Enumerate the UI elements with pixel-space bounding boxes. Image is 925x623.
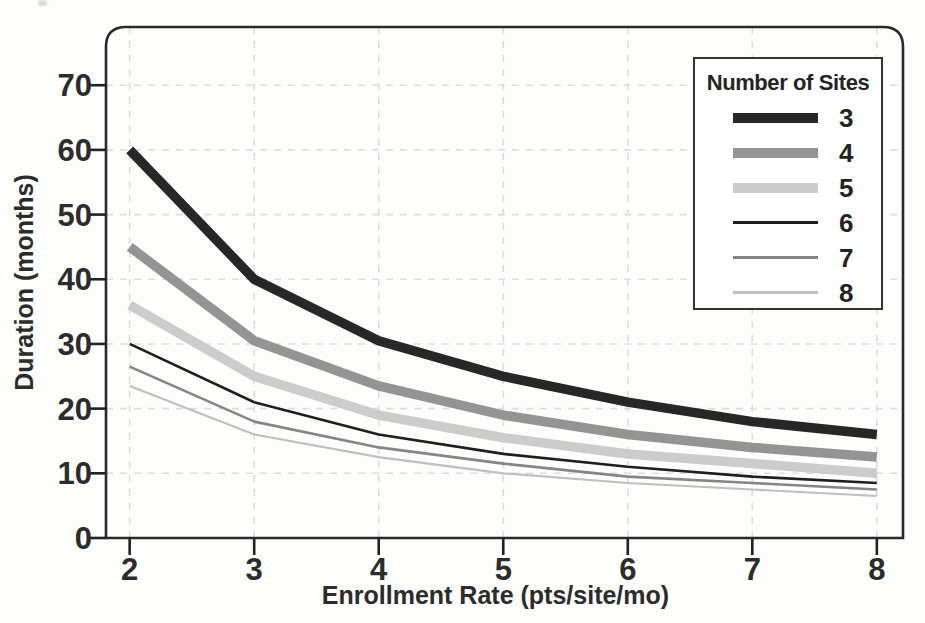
legend-entry-3-sites: 3 <box>695 100 881 135</box>
legend: Number of Sites 3 4 5 6 7 <box>693 57 883 310</box>
legend-entry-8-sites: 8 <box>695 275 881 310</box>
x-axis-title: Enrollment Rate (pts/site/mo) <box>322 581 669 609</box>
legend-line-swatch <box>733 221 818 224</box>
y-tick-label: 30 <box>58 327 92 362</box>
y-tick-label: 60 <box>58 133 92 168</box>
legend-entry-label: 5 <box>839 175 853 201</box>
figure-canvas: 0102030405060702345678Enrollment Rate (p… <box>0 0 925 623</box>
legend-line-swatch <box>733 256 818 259</box>
legend-entry-label: 7 <box>839 245 853 271</box>
legend-line-swatch <box>733 148 818 158</box>
x-tick-label: 3 <box>246 552 263 587</box>
legend-line-swatch <box>733 113 818 123</box>
y-tick-label: 10 <box>58 456 92 491</box>
y-tick-label: 50 <box>58 198 92 233</box>
y-tick-label: 40 <box>58 262 92 297</box>
legend-entry-6-sites: 6 <box>695 205 881 240</box>
legend-title: Number of Sites <box>695 70 881 96</box>
legend-entry-label: 8 <box>839 280 853 306</box>
legend-rows: 3 4 5 6 7 8 <box>695 100 881 310</box>
y-tick-label: 70 <box>58 68 92 103</box>
legend-entry-7-sites: 7 <box>695 240 881 275</box>
y-axis-title: Duration (months) <box>10 174 38 391</box>
legend-line-swatch <box>733 183 818 193</box>
legend-entry-label: 6 <box>839 210 853 236</box>
x-tick-label: 2 <box>121 552 138 587</box>
legend-entry-label: 3 <box>839 105 853 131</box>
series-line-7-sites <box>130 367 877 490</box>
scan-artifact <box>38 0 47 6</box>
legend-entry-4-sites: 4 <box>695 135 881 170</box>
y-tick-label: 20 <box>58 392 92 427</box>
x-tick-label: 7 <box>744 552 761 587</box>
y-tick-label: 0 <box>75 521 92 556</box>
x-tick-label: 8 <box>868 552 885 587</box>
legend-line-swatch <box>733 291 818 294</box>
legend-entry-5-sites: 5 <box>695 170 881 205</box>
legend-entry-label: 4 <box>839 140 853 166</box>
